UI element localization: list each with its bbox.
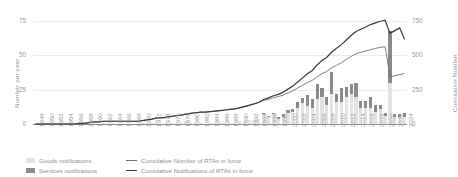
- bar-segment-services: [316, 84, 319, 99]
- y-axis-right-label: Cumulative Number: [451, 54, 458, 112]
- line-swatch-rtas-icon: [126, 160, 137, 161]
- x-tick-label: 1974: [164, 113, 171, 127]
- x-tick-label: 1984: [213, 113, 220, 127]
- y-tick-right: 0: [412, 120, 436, 127]
- bar-segment-services: [330, 72, 333, 94]
- x-tick-label: 1950: [48, 113, 55, 127]
- x-tick-label: 1954: [67, 113, 74, 127]
- goods-swatch-icon: [26, 158, 35, 163]
- line-swatch-notifications-icon: [126, 170, 137, 171]
- x-tick-label: 2016: [368, 113, 375, 127]
- bar-segment-services: [311, 99, 314, 107]
- bar-segment-services: [320, 88, 323, 96]
- x-tick-label: 1982: [203, 113, 210, 127]
- x-tick-label: 1990: [242, 113, 249, 127]
- x-tick-label: 1966: [125, 113, 132, 127]
- x-tick-label: 1964: [116, 113, 123, 127]
- legend-item-cumulative-rtas: Cumulative Number of RTAs in force: [126, 157, 241, 164]
- x-tick-label: 1958: [87, 113, 94, 127]
- x-tick-label: 1980: [193, 113, 200, 127]
- x-tick-label: 2000: [291, 113, 298, 127]
- x-tick-label: 1992: [252, 113, 259, 127]
- x-tick-label: 1948: [38, 113, 45, 127]
- bar-segment-services: [388, 31, 391, 83]
- y-tick-left: 50: [4, 51, 26, 58]
- x-tick-label: 1968: [135, 113, 142, 127]
- x-tick-label: 2004: [310, 113, 317, 127]
- legend-label-services: Services notifications: [39, 167, 97, 174]
- bar-segment-services: [306, 95, 309, 106]
- bar-column: [388, 31, 391, 124]
- legend-label-cumulative-rtas: Cumulative Number of RTAs in force: [141, 157, 241, 164]
- y-tick-right: 250: [412, 86, 436, 93]
- x-tick-label: 2008: [329, 113, 336, 127]
- bar-segment-services: [350, 84, 353, 94]
- x-tick-label: 1978: [184, 113, 191, 127]
- x-tick-label: 1998: [281, 113, 288, 127]
- x-tick-label: 2002: [300, 113, 307, 127]
- chart-root: Number per year Cumulative Number 025507…: [0, 0, 458, 177]
- x-tick-label: 1986: [223, 113, 230, 127]
- x-tick-label: 2020: [388, 113, 395, 127]
- x-tick-label: 1988: [232, 113, 239, 127]
- x-tick-label: 1996: [271, 113, 278, 127]
- bar-segment-services: [325, 97, 328, 105]
- legend-label-cumulative-notifications: Cumulative Notifications of RTAs in forc…: [141, 167, 253, 174]
- y-tick-left: 75: [4, 17, 26, 24]
- bar-segment-services: [335, 94, 338, 102]
- x-tick-label: 1952: [57, 113, 64, 127]
- bar-segment-services: [291, 109, 294, 112]
- bar-segment-services: [301, 98, 304, 103]
- bar-segment-services: [345, 87, 348, 97]
- x-tick-label: 1976: [174, 113, 181, 127]
- x-axis-labels: 1948195019521954195619581960196219641966…: [33, 127, 407, 157]
- y-tick-left: 25: [4, 86, 26, 93]
- x-tick-label: 1956: [77, 113, 84, 127]
- bar-segment-services: [369, 97, 372, 108]
- bar-segment-services: [364, 101, 367, 108]
- legend-item-services: Services notifications: [26, 167, 97, 174]
- legend-label-goods: Goods notifications: [39, 157, 92, 164]
- y-axis-left-label: Number per year: [13, 59, 20, 108]
- bar-segment-services: [296, 102, 299, 107]
- x-tick-label: 2012: [349, 113, 356, 127]
- x-tick-label: 1970: [145, 113, 152, 127]
- x-tick-label: 2018: [378, 113, 385, 127]
- plot-area: [33, 21, 407, 124]
- bar-segment-services: [340, 88, 343, 102]
- services-swatch-icon: [26, 168, 35, 173]
- x-tick-label: 2024: [407, 113, 414, 127]
- y-tick-left: 0: [4, 120, 26, 127]
- x-tick-label: 2006: [320, 113, 327, 127]
- y-tick-right: 750: [412, 17, 436, 24]
- x-tick-label: 1960: [96, 113, 103, 127]
- bar-segment-services: [354, 83, 357, 97]
- x-tick-label: 2022: [397, 113, 404, 127]
- legend-item-cumulative-notifications: Cumulative Notifications of RTAs in forc…: [126, 167, 253, 174]
- bar-segment-services: [379, 105, 382, 109]
- x-tick-label: 2014: [359, 113, 366, 127]
- x-tick-label: 1972: [155, 113, 162, 127]
- y-tick-right: 500: [412, 51, 436, 58]
- x-tick-label: 1962: [106, 113, 113, 127]
- bar-segment-services: [374, 105, 377, 112]
- legend-item-goods: Goods notifications: [26, 157, 92, 164]
- x-tick-label: 1994: [261, 113, 268, 127]
- x-tick-label: 2010: [339, 113, 346, 127]
- bar-segment-services: [359, 101, 362, 108]
